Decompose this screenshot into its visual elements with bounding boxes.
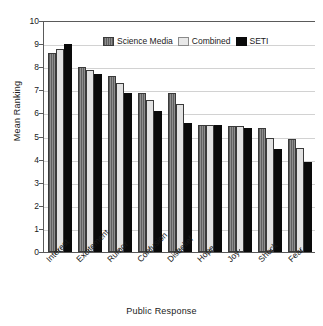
bar	[198, 125, 206, 252]
y-tick-label: 5	[3, 132, 39, 142]
bar	[228, 126, 236, 252]
bar-groups	[45, 22, 315, 252]
y-tick-mark	[39, 137, 43, 138]
legend-entry: Combined	[178, 36, 231, 46]
bar	[236, 126, 244, 252]
y-tick-mark	[39, 160, 43, 161]
y-tick-label: 6	[3, 108, 39, 118]
bar	[288, 139, 296, 252]
bar	[258, 128, 266, 252]
bar	[78, 67, 86, 252]
legend-swatch-icon	[178, 37, 189, 46]
legend-label: Combined	[192, 36, 231, 46]
legend-swatch-icon	[236, 37, 247, 46]
bar	[86, 70, 94, 252]
bar-group	[78, 22, 102, 252]
bar	[56, 49, 64, 252]
legend-entry: SETI	[236, 36, 269, 46]
legend-label: Science Media	[117, 36, 173, 46]
bar-group	[168, 22, 192, 252]
y-tick-label: 4	[3, 155, 39, 165]
legend-swatch-icon	[103, 37, 114, 46]
x-axis-ticks: InterestExcitementRumorConfusionDisbelie…	[43, 253, 315, 303]
bar	[116, 83, 124, 252]
legend-entry: Science Media	[103, 36, 173, 46]
y-tick-mark	[39, 21, 43, 22]
legend-label: SETI	[250, 36, 269, 46]
bar-group	[228, 22, 252, 252]
y-tick-label: 2	[3, 201, 39, 211]
bar-group	[108, 22, 132, 252]
y-tick-label: 7	[3, 85, 39, 95]
bar	[138, 93, 146, 252]
bar	[296, 148, 304, 252]
bar-group	[288, 22, 312, 252]
bar	[48, 53, 56, 252]
y-tick-mark	[39, 113, 43, 114]
bar	[168, 93, 176, 252]
bar-group	[258, 22, 282, 252]
bar	[176, 104, 184, 252]
bar	[206, 125, 214, 252]
bar-chart: Mean Ranking 109876543210 InterestExcite…	[0, 0, 323, 326]
y-tick-label: 9	[3, 39, 39, 49]
bar	[274, 149, 282, 252]
y-tick-label: 8	[3, 62, 39, 72]
chart-legend: Science MediaCombinedSETI	[103, 36, 268, 46]
plot-area	[43, 21, 315, 253]
bar-group	[198, 22, 222, 252]
y-tick-mark	[39, 229, 43, 230]
y-tick-label: 1	[3, 224, 39, 234]
bar-group	[138, 22, 162, 252]
bar	[146, 100, 154, 252]
bar	[214, 125, 222, 252]
y-tick-mark	[39, 67, 43, 68]
y-tick-label: 10	[3, 16, 39, 26]
bar	[244, 128, 252, 252]
y-tick-mark	[39, 90, 43, 91]
bar	[266, 138, 274, 252]
x-axis-title: Public Response	[0, 306, 323, 316]
bar	[108, 76, 116, 252]
y-tick-label: 0	[3, 247, 39, 257]
y-tick-label: 3	[3, 178, 39, 188]
bar	[94, 74, 102, 252]
bar	[304, 162, 312, 252]
y-tick-mark	[39, 206, 43, 207]
bar	[64, 44, 72, 252]
bar-group	[48, 22, 72, 252]
bar	[124, 93, 132, 252]
y-tick-mark	[39, 183, 43, 184]
y-tick-mark	[39, 44, 43, 45]
